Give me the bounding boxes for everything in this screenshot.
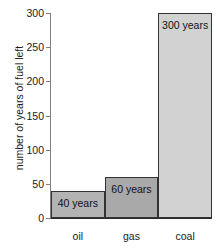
y-axis-title: number of years of fuel left — [13, 28, 25, 188]
y-axis-tick-label: 100 — [26, 145, 44, 156]
x-axis-line — [50, 218, 212, 219]
x-axis-label-coal: coal — [158, 230, 212, 242]
bar-coal: 300 years — [158, 13, 212, 218]
y-axis-tick — [46, 218, 51, 219]
bar-oil: 40 years — [51, 191, 105, 218]
plot-area: 40 years60 years300 years — [51, 13, 212, 218]
x-axis-label-oil: oil — [51, 230, 105, 242]
y-axis-tick-label: 200 — [26, 76, 44, 87]
bar-gas: 60 years — [105, 177, 159, 218]
y-axis-tick-label: 0 — [38, 213, 44, 224]
bar-value-label: 40 years — [52, 197, 104, 209]
bar-value-label: 300 years — [159, 19, 211, 31]
y-axis-tick-label: 250 — [26, 42, 44, 53]
x-axis-label-gas: gas — [105, 230, 159, 242]
bar-chart: number of years of fuel left 05010015020… — [0, 0, 217, 252]
y-axis-tick-label: 300 — [26, 8, 44, 19]
bar-value-label: 60 years — [106, 183, 158, 195]
y-axis-tick-label: 150 — [26, 111, 44, 122]
y-axis-tick-label: 50 — [32, 179, 44, 190]
